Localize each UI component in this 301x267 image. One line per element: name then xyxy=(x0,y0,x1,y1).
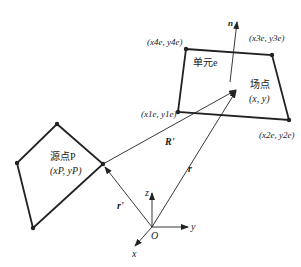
field-point-label: 场点 xyxy=(250,80,270,90)
x-axis xyxy=(135,227,152,246)
node-dots xyxy=(15,47,291,230)
normal-label: n xyxy=(228,19,233,28)
source-quad xyxy=(17,124,103,228)
z-axis-label: z xyxy=(145,188,149,198)
node4-label: (x4e, y4e) xyxy=(147,38,182,47)
x-axis-label: x xyxy=(132,249,136,259)
origin-label: O xyxy=(151,231,158,241)
boundary-element-diagram: 单元e 场点 (x, y) 源点P (xP, yP) n R' r r' (x1… xyxy=(0,0,301,267)
r-prime-label: r' xyxy=(117,201,124,211)
source-point-coords: (xP, yP) xyxy=(50,166,81,176)
node2-label: (x2e, y2e) xyxy=(259,131,294,140)
node1-label: (x1e, y1e) xyxy=(141,110,176,119)
field-point-coords: (x, y) xyxy=(249,94,270,104)
element-label: 单元e xyxy=(193,58,217,68)
r-label: r xyxy=(188,164,192,174)
y-axis-label: y xyxy=(191,222,195,232)
node3-label: (x3e, y3e) xyxy=(249,34,284,43)
R-prime-arrow xyxy=(103,90,236,164)
R-prime-label: R' xyxy=(165,137,174,147)
source-point-label: 源点P xyxy=(50,152,76,162)
